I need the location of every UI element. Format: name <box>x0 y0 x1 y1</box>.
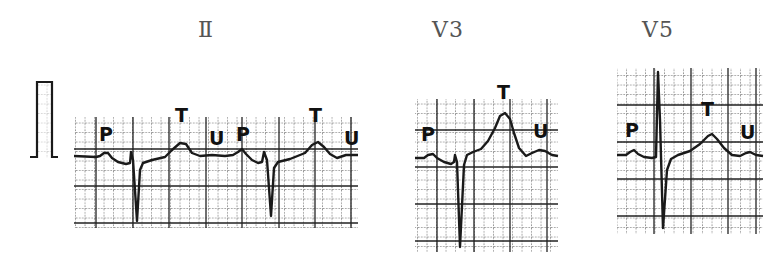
wave-label-p: P <box>625 119 639 141</box>
lead-label-v5: V5 <box>642 17 674 42</box>
wave-label-u: U <box>533 120 548 142</box>
wave-label-t: T <box>701 98 714 120</box>
wave-label-u: U <box>740 121 755 143</box>
wave-label-t: T <box>309 104 322 126</box>
lead-v5-strip <box>617 68 763 234</box>
wave-label-u: U <box>209 127 224 149</box>
wave-label-t: T <box>497 81 510 103</box>
lead-label-v3: V3 <box>432 17 464 42</box>
wave-label-u: U <box>344 127 359 149</box>
wave-label-p: P <box>99 123 113 145</box>
calibration-pulse <box>30 82 58 158</box>
wave-label-p: P <box>421 123 435 145</box>
wave-label-t: T <box>175 104 188 126</box>
lead-label-ii: Ⅱ <box>198 17 214 42</box>
wave-label-p: P <box>236 123 250 145</box>
